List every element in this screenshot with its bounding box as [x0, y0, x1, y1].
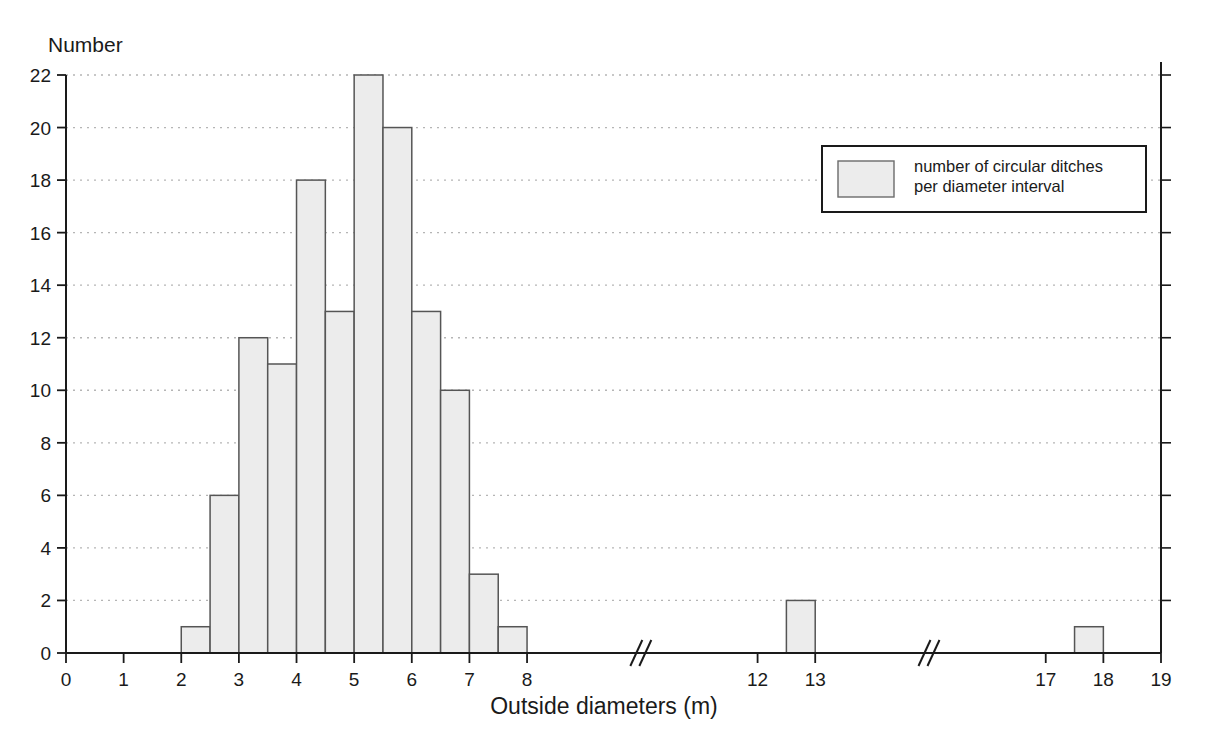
- histogram-bar: [181, 627, 210, 653]
- y-tick-label: 20: [30, 118, 51, 139]
- histogram-bar: [354, 75, 383, 653]
- legend-label-line1: number of circular ditches: [914, 157, 1103, 175]
- chart-legend: number of circular ditches per diameter …: [822, 146, 1146, 212]
- x-tick-label: 17: [1035, 669, 1056, 690]
- x-tick-label: 2: [176, 669, 187, 690]
- histogram-bar: [786, 600, 815, 653]
- x-tick-label: 1: [118, 669, 129, 690]
- x-tick-label: 19: [1150, 669, 1171, 690]
- y-tick-label: 12: [30, 328, 51, 349]
- histogram-bar: [1075, 627, 1104, 653]
- x-tick-label: 0: [61, 669, 72, 690]
- y-tick-label: 16: [30, 223, 51, 244]
- y-tick-label: 4: [40, 538, 51, 559]
- x-tick-label: 13: [805, 669, 826, 690]
- legend-label-line2: per diameter interval: [914, 177, 1064, 195]
- x-tick-label: 5: [349, 669, 360, 690]
- histogram-bar: [325, 311, 354, 653]
- y-tick-label: 18: [30, 170, 51, 191]
- histogram-bar: [412, 311, 441, 653]
- histogram-bar: [268, 364, 297, 653]
- y-axis-title: Number: [48, 33, 123, 56]
- y-tick-label: 6: [40, 485, 51, 506]
- x-axis-title: Outside diameters (m): [490, 693, 718, 719]
- histogram-bar: [297, 180, 326, 653]
- x-tick-label: 8: [522, 669, 533, 690]
- histogram-bar: [239, 338, 268, 653]
- chart-canvas: Number 0246810121416182022 0123456781213…: [0, 0, 1208, 743]
- x-tick-label: 4: [291, 669, 302, 690]
- y-tick-label: 22: [30, 65, 51, 86]
- histogram-bar: [383, 128, 412, 653]
- histogram-bar: [469, 574, 498, 653]
- x-tick-label: 7: [464, 669, 475, 690]
- y-tick-label: 14: [30, 275, 52, 296]
- x-tick-label: 3: [234, 669, 245, 690]
- histogram-bar: [498, 627, 527, 653]
- y-tick-label: 8: [40, 433, 51, 454]
- legend-swatch: [838, 161, 894, 197]
- x-tick-label: 12: [747, 669, 768, 690]
- histogram-bar: [210, 495, 239, 653]
- histogram-bar: [441, 390, 470, 653]
- y-tick-label: 2: [40, 590, 51, 611]
- histogram-chart: Number 0246810121416182022 0123456781213…: [0, 0, 1208, 743]
- y-tick-label: 0: [40, 643, 51, 664]
- x-tick-label: 18: [1093, 669, 1114, 690]
- x-tick-label: 6: [407, 669, 418, 690]
- y-tick-label: 10: [30, 380, 51, 401]
